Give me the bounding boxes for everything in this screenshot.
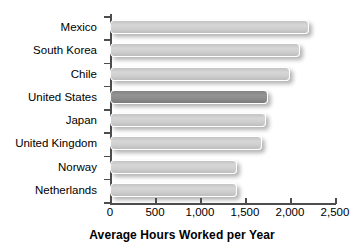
- bar-row: [110, 86, 335, 109]
- x-axis-tick-label: 2,500: [313, 206, 357, 218]
- x-axis-title: Average Hours Worked per Year: [0, 228, 364, 242]
- x-axis-tick: [200, 198, 202, 204]
- bar-row: [110, 132, 335, 155]
- y-axis-label-united-kingdom: United Kingdom: [0, 132, 103, 155]
- bar-row: [110, 16, 335, 39]
- x-axis-tick: [335, 198, 337, 204]
- bar-chart: Mexico South Korea Chile United States J…: [0, 0, 364, 251]
- bar-united-kingdom: [110, 136, 262, 150]
- bar-row: [110, 109, 335, 132]
- x-axis-tick-label: 1,500: [223, 206, 267, 218]
- x-axis-tick: [155, 198, 157, 204]
- y-axis-category-labels: Mexico South Korea Chile United States J…: [0, 16, 103, 202]
- y-axis-label-mexico: Mexico: [0, 16, 103, 39]
- x-axis-tick-label: 1,000: [178, 206, 222, 218]
- bar-mexico: [110, 20, 309, 34]
- y-axis-label-united-states: United States: [0, 86, 103, 109]
- bar-netherlands: [110, 183, 237, 197]
- bar-row: [110, 63, 335, 86]
- bar-row: [110, 39, 335, 62]
- x-axis-line: [110, 203, 336, 205]
- x-axis-tick-label: 500: [133, 206, 177, 218]
- y-axis-label-south-korea: South Korea: [0, 39, 103, 62]
- bar-united-states: [110, 90, 268, 104]
- bar-chile: [110, 67, 290, 81]
- x-axis-tick: [245, 198, 247, 204]
- x-axis-tick: [110, 198, 112, 204]
- x-axis-tick: [290, 198, 292, 204]
- bar-norway: [110, 160, 237, 174]
- y-axis-label-netherlands: Netherlands: [0, 179, 103, 202]
- bar-row: [110, 179, 335, 202]
- bar-south-korea: [110, 43, 300, 57]
- bar-japan: [110, 113, 266, 127]
- y-axis-label-japan: Japan: [0, 109, 103, 132]
- plot-area: [110, 16, 335, 202]
- x-axis-tick-label: 0: [88, 206, 132, 218]
- bar-row: [110, 156, 335, 179]
- x-axis-tick-label: 2,000: [268, 206, 312, 218]
- y-axis-label-norway: Norway: [0, 156, 103, 179]
- y-axis-label-chile: Chile: [0, 63, 103, 86]
